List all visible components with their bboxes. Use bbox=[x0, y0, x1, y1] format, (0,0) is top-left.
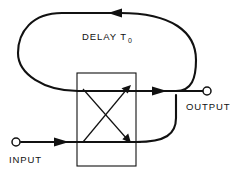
block-diagram: DELAY T 0 INPUT OUTPUT bbox=[0, 0, 236, 178]
input-terminal[interactable] bbox=[12, 138, 20, 146]
delay-label: DELAY T bbox=[82, 31, 127, 42]
output-label: OUTPUT bbox=[186, 101, 230, 112]
coupler-arrow-up-icon bbox=[122, 85, 132, 93]
feedback-loop-path bbox=[18, 13, 196, 91]
feedback-arrow-icon bbox=[108, 9, 122, 18]
delay-subscript-label: 0 bbox=[128, 37, 132, 44]
return-loop-path bbox=[136, 95, 176, 142]
figure-canvas: DELAY T 0 INPUT OUTPUT bbox=[0, 0, 236, 178]
input-label: INPUT bbox=[9, 154, 42, 165]
output-arrow-icon bbox=[152, 87, 167, 96]
output-terminal[interactable] bbox=[203, 87, 211, 95]
input-arrow-icon bbox=[54, 138, 69, 147]
